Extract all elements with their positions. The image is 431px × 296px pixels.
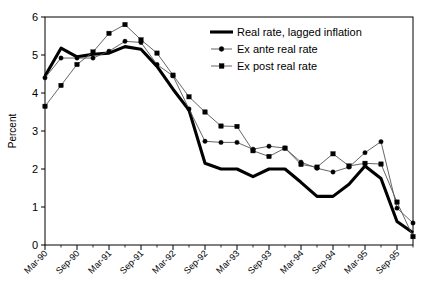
data-point-square bbox=[395, 200, 399, 204]
plot-border bbox=[45, 17, 413, 245]
y-tick-label: 4 bbox=[32, 87, 38, 99]
x-tick-label: Mar-91 bbox=[86, 248, 113, 275]
series-1 bbox=[45, 47, 413, 233]
y-tick-label: 2 bbox=[32, 163, 38, 175]
y-tick-label: 6 bbox=[32, 11, 38, 23]
data-point-square bbox=[43, 104, 47, 108]
x-tick-label: Mar-95 bbox=[342, 248, 369, 275]
data-point-circle bbox=[91, 56, 95, 60]
y-tick-label: 0 bbox=[32, 239, 38, 251]
x-axis: Mar-90Sep-90Mar-91Sep-91Mar-92Sep-92Mar-… bbox=[22, 245, 413, 276]
data-point-square bbox=[123, 22, 127, 26]
x-tick-label: Sep-95 bbox=[374, 248, 402, 276]
data-point-square bbox=[91, 50, 95, 54]
data-point-circle bbox=[363, 150, 367, 154]
data-point-circle bbox=[187, 107, 191, 111]
y-axis-title: Percent bbox=[7, 114, 18, 149]
data-point-circle bbox=[219, 140, 223, 144]
data-point-circle bbox=[379, 139, 383, 143]
x-tick-label: Sep-91 bbox=[118, 248, 146, 276]
data-point-circle bbox=[75, 56, 79, 60]
data-point-square bbox=[235, 124, 239, 128]
legend-item-3: Ex post real rate bbox=[211, 60, 317, 72]
x-tick-label: Sep-92 bbox=[182, 248, 210, 276]
data-point-square bbox=[267, 154, 271, 158]
x-tick-label: Mar-90 bbox=[22, 248, 49, 275]
data-point-square bbox=[331, 152, 335, 156]
series-2 bbox=[43, 39, 415, 225]
data-point-circle bbox=[331, 170, 335, 174]
data-point-circle bbox=[395, 206, 399, 210]
data-point-square bbox=[75, 62, 79, 66]
data-point-circle bbox=[123, 39, 127, 43]
legend-label: Ex ante real rate bbox=[237, 43, 318, 55]
legend-label: Real rate, lagged inflation bbox=[237, 26, 362, 38]
y-tick-label: 5 bbox=[32, 49, 38, 61]
data-point-square bbox=[219, 124, 223, 128]
data-point-circle bbox=[235, 140, 239, 144]
data-point-square bbox=[251, 149, 255, 153]
real-rate-line-chart: 0123456 Mar-90Sep-90Mar-91Sep-91Mar-92Se… bbox=[0, 0, 431, 296]
data-point-square bbox=[299, 162, 303, 166]
x-tick-label: Mar-93 bbox=[214, 248, 241, 275]
data-point-square bbox=[347, 164, 351, 168]
plot-frame bbox=[45, 17, 413, 245]
chart-container: 0123456 Mar-90Sep-90Mar-91Sep-91Mar-92Se… bbox=[0, 0, 431, 296]
series-line bbox=[45, 25, 413, 237]
x-tick-label: Sep-90 bbox=[54, 248, 82, 276]
x-tick-label: Mar-92 bbox=[150, 248, 177, 275]
series-line bbox=[45, 41, 413, 223]
legend-label: Ex post real rate bbox=[237, 60, 317, 72]
data-point-square bbox=[171, 73, 175, 77]
data-point-square bbox=[203, 110, 207, 114]
data-point-square bbox=[379, 162, 383, 166]
data-point-circle bbox=[107, 49, 111, 53]
y-axis: 0123456 bbox=[32, 11, 45, 251]
data-point-square bbox=[139, 38, 143, 42]
x-tick-label: Sep-94 bbox=[310, 248, 338, 276]
y-tick-label: 3 bbox=[32, 125, 38, 137]
data-point-circle bbox=[59, 56, 63, 60]
x-tick-label: Mar-94 bbox=[278, 248, 305, 275]
data-point-square bbox=[363, 161, 367, 165]
chart-legend: Real rate, lagged inflationEx ante real … bbox=[210, 26, 362, 72]
data-point-circle bbox=[43, 76, 47, 80]
legend-item-1: Real rate, lagged inflation bbox=[210, 26, 362, 38]
data-point-circle bbox=[203, 139, 207, 143]
data-point-square bbox=[107, 31, 111, 35]
legend-item-2: Ex ante real rate bbox=[211, 43, 318, 55]
data-point-square bbox=[155, 51, 159, 55]
data-point-circle bbox=[411, 221, 415, 225]
data-point-square bbox=[411, 234, 415, 238]
data-point-circle bbox=[155, 62, 159, 66]
y-tick-label: 1 bbox=[32, 201, 38, 213]
legend-swatch-circle bbox=[219, 47, 224, 52]
series-line bbox=[45, 47, 413, 233]
series-layer bbox=[43, 22, 415, 238]
x-tick-label: Sep-93 bbox=[246, 248, 274, 276]
data-point-square bbox=[315, 165, 319, 169]
data-point-square bbox=[283, 146, 287, 150]
legend-swatch-square bbox=[219, 64, 224, 69]
data-point-circle bbox=[267, 144, 271, 148]
data-point-square bbox=[59, 83, 63, 87]
data-point-square bbox=[187, 95, 191, 99]
